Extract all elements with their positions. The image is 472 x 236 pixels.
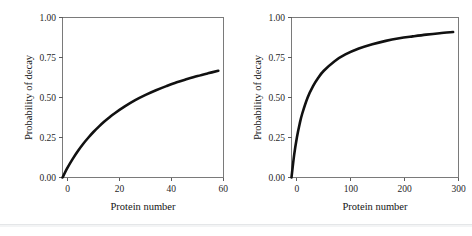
x-tick-label: 0 [65, 184, 70, 194]
y-tick-label: 0.50 [39, 93, 56, 103]
chart-panel-left: 1.00 0.75 0.50 0.25 0.00 0 20 40 60 Prot… [0, 0, 236, 236]
x-tick-label: 300 [451, 184, 466, 194]
x-ticks-left [68, 178, 224, 182]
y-tick-label: 1.00 [39, 13, 56, 23]
two-panel-figure: 1.00 0.75 0.50 0.25 0.00 0 20 40 60 Prot… [0, 0, 472, 236]
x-axis-title: Protein number [110, 201, 176, 212]
x-tick-label: 200 [397, 184, 412, 194]
page-divider-shadow [0, 225, 472, 227]
y-tick-label: 1.00 [268, 13, 285, 23]
x-axis-title: Protein number [342, 201, 408, 212]
plot-svg-left: 1.00 0.75 0.50 0.25 0.00 0 20 40 60 Prot… [0, 0, 236, 236]
plot-svg-right: 1.00 0.75 0.50 0.25 0.00 0 100 200 300 P… [236, 0, 472, 236]
x-tick-label: 40 [167, 184, 177, 194]
x-tick-label: 60 [218, 184, 228, 194]
x-tick-label: 0 [295, 184, 300, 194]
y-tick-label: 0.00 [39, 173, 56, 183]
y-axis-title: Probability of decay [252, 54, 263, 140]
decay-probability-curve [63, 71, 219, 178]
axis-frame-right [292, 18, 459, 178]
y-tick-label: 0.75 [268, 53, 285, 63]
decay-probability-curve [292, 32, 454, 177]
y-tick-label: 0.25 [39, 133, 56, 143]
x-ticks-right [297, 178, 459, 182]
y-tick-label: 0.00 [268, 173, 285, 183]
x-tick-label: 100 [344, 184, 359, 194]
y-tick-label: 0.75 [39, 53, 56, 63]
y-axis-title: Probability of decay [23, 54, 34, 140]
y-tick-label: 0.25 [268, 133, 285, 143]
y-ticks-left [59, 18, 63, 178]
y-ticks-right [288, 18, 292, 178]
chart-panel-right: 1.00 0.75 0.50 0.25 0.00 0 100 200 300 P… [236, 0, 472, 236]
y-tick-label: 0.50 [268, 93, 285, 103]
x-tick-label: 20 [115, 184, 125, 194]
